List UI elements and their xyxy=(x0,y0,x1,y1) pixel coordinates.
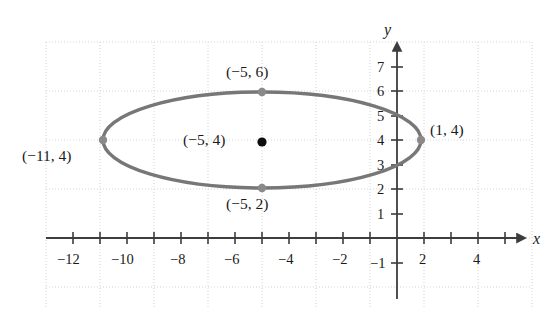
ellipse-graph-figure: y x −12 −10 −8 −6 −4 −2 2 4 7 6 5 4 3 2 … xyxy=(0,0,560,315)
x-tick-label--2: −2 xyxy=(332,252,347,267)
x-tick-label--10: −10 xyxy=(111,252,134,267)
point-marker-left-vertex xyxy=(99,136,107,144)
y-tick-label-2: 2 xyxy=(377,182,384,197)
point-marker-bottom-covertex xyxy=(258,184,266,192)
x-tick-label--6: −6 xyxy=(224,252,239,267)
x-tick-label--4: −4 xyxy=(278,252,293,267)
y-axis-label: y xyxy=(384,22,391,38)
y-tick-label-4: 4 xyxy=(377,133,384,148)
coordinate-plane xyxy=(0,0,560,315)
x-tick-label-4: 4 xyxy=(473,252,480,267)
point-label-top-covertex: (−5, 6) xyxy=(226,64,268,80)
point-label-bottom-covertex: (−5, 2) xyxy=(226,196,268,212)
x-tick-label--8: −8 xyxy=(170,252,185,267)
y-tick-label-5: 5 xyxy=(377,109,384,124)
y-tick-label-3: 3 xyxy=(377,158,384,173)
point-marker-top-covertex xyxy=(258,88,266,96)
y-tick-label-7: 7 xyxy=(377,60,384,75)
x-tick-label--12: −12 xyxy=(57,252,80,267)
point-marker-center xyxy=(257,137,266,146)
x-tick-label-2: 2 xyxy=(419,252,426,267)
y-tick-label-6: 6 xyxy=(377,84,384,99)
point-label-center: (−5, 4) xyxy=(183,132,225,148)
point-label-left-vertex: (−11, 4) xyxy=(22,148,72,164)
y-tick-label-1: 1 xyxy=(377,207,384,222)
plot-background xyxy=(46,42,533,309)
y-tick-label--1: −1 xyxy=(370,256,385,271)
x-axis-label: x xyxy=(533,231,540,247)
point-label-right-vertex: (1, 4) xyxy=(430,122,464,138)
point-marker-right-vertex xyxy=(417,136,425,144)
